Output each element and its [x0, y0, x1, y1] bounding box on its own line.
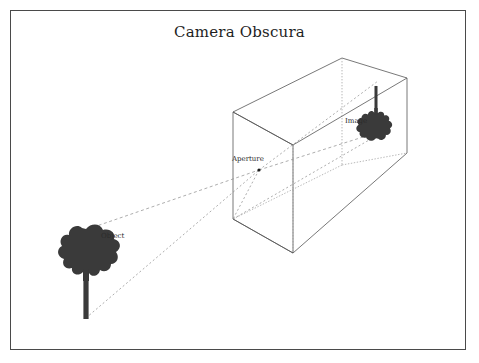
image-tree-silhouette [356, 86, 392, 141]
aperture-label: Aperture [232, 156, 264, 163]
diagram-canvas [0, 0, 479, 363]
ray-floor-guide-2 [233, 136, 376, 219]
image-label: Image [345, 118, 367, 125]
aperture-dot [257, 168, 260, 171]
camera-obscura-figure: Camera Obscura Aperture Object Image [0, 0, 479, 363]
figure-title: Camera Obscura [0, 25, 479, 40]
object-label: Object [101, 233, 124, 240]
light-rays [86, 81, 382, 318]
box-front-face [233, 112, 293, 253]
box-bottom-face [233, 153, 407, 253]
